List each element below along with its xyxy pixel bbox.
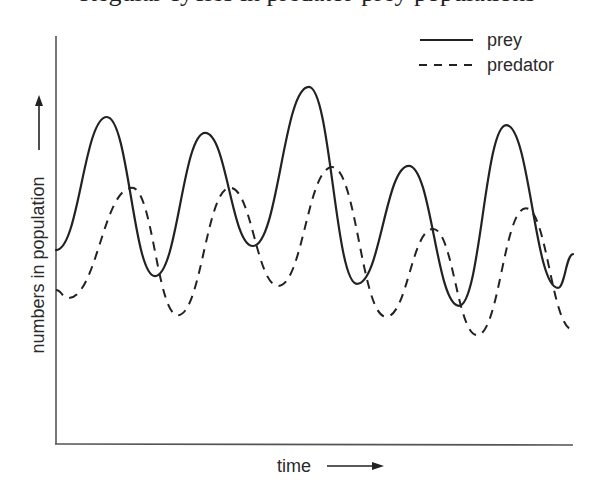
legend-prey-label: prey	[487, 30, 522, 50]
x-axis	[55, 444, 573, 445]
up-arrow-icon	[35, 95, 43, 106]
prey-series-line	[56, 87, 573, 306]
x-axis-label-group: time	[277, 456, 384, 476]
right-arrow-icon	[372, 462, 384, 470]
y-axis-label-group: numbers in population	[28, 95, 48, 354]
chart-canvas: prey predator numbers in population time	[0, 0, 595, 487]
y-axis-label: numbers in population	[28, 176, 48, 353]
predator-series-line	[56, 167, 573, 335]
legend: prey predator	[419, 30, 554, 75]
legend-predator-label: predator	[487, 55, 554, 75]
x-axis-label: time	[277, 456, 311, 476]
